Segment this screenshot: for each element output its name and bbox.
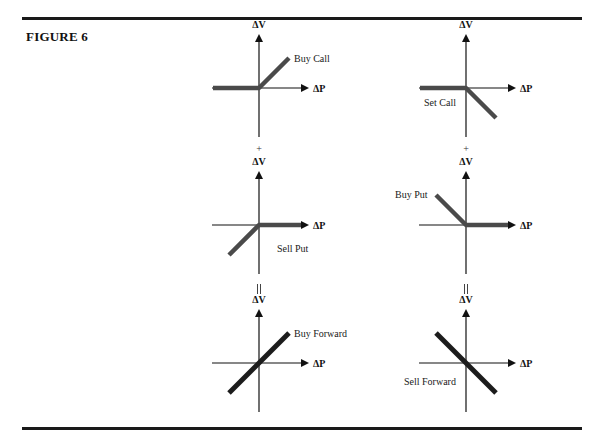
x-axis-label: ΔP (313, 358, 325, 369)
panel-sell-put: ΔVΔPSell Put (212, 156, 325, 274)
payoff-label: Buy Forward (294, 328, 347, 339)
panel-buy-call: ΔVΔPBuy Call (212, 19, 330, 137)
y-axis-label: ΔV (252, 294, 266, 305)
equals-operator-left (258, 284, 261, 294)
panel-sell-forward: ΔVΔPSell Forward (404, 294, 532, 412)
y-axis-label: ΔV (459, 19, 473, 30)
y-axis-label: ΔV (252, 19, 266, 30)
panel-buy-put: ΔVΔPBuy Put (395, 156, 532, 274)
bottom-rule (22, 427, 582, 430)
x-axis-label: ΔP (313, 220, 325, 231)
panel-sell-call: ΔVΔPSet Call (419, 19, 532, 137)
y-axis-label: ΔV (459, 156, 473, 167)
payoff-line (436, 195, 508, 225)
payoff-label: Buy Put (395, 189, 428, 200)
plus-operator-left: + (256, 143, 262, 154)
payoff-label: Buy Call (294, 53, 330, 64)
x-axis-label: ΔP (520, 358, 532, 369)
payoff-label: Set Call (424, 97, 456, 108)
x-axis-label: ΔP (313, 83, 325, 94)
y-axis-label: ΔV (459, 294, 473, 305)
x-axis-label: ΔP (520, 83, 532, 94)
payoff-label: Sell Put (277, 243, 309, 254)
payoff-diagram: ΔVΔPBuy CallΔVΔPSet CallΔVΔPSell PutΔVΔP… (0, 0, 600, 442)
plus-operator-right: + (463, 143, 469, 154)
payoff-label: Sell Forward (404, 376, 456, 387)
equals-operator-right (465, 284, 468, 294)
x-axis-label: ΔP (520, 220, 532, 231)
panel-buy-forward: ΔVΔPBuy Forward (212, 294, 347, 412)
payoff-line (213, 58, 289, 88)
y-axis-label: ΔV (252, 156, 266, 167)
